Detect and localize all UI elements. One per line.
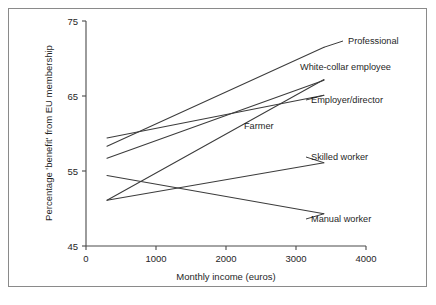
series-label-manual-worker: Manual worker [311,214,371,224]
x-tick-label-2000: 2000 [215,253,236,264]
series-lines [107,47,324,214]
series-line-farmer [107,80,324,201]
y-axis-title: Percentage 'benefit' from EU membership [43,45,54,221]
y-tick-label-55: 55 [67,166,78,177]
series-line-employer-director [107,95,324,138]
y-tick-label-65: 65 [67,91,78,102]
x-tick-label-0: 0 [83,253,88,264]
series-line-white-collar-employee [107,80,324,158]
x-tick-label-1000: 1000 [145,253,166,264]
chart-figure: 75 65 55 45 0 1000 2000 3000 4000 Monthl… [0,0,436,305]
series-label-employer-director: Employer/director [311,95,383,105]
x-axis-title: Monthly income (euros) [176,271,275,282]
series-label-farmer: Farmer [244,121,274,131]
series-label-professional: Professional [348,36,399,46]
leader-line-professional [324,41,343,47]
y-tick-label-45: 45 [67,241,78,252]
x-tick-label-4000: 4000 [355,253,376,264]
series-label-white-collar-employee: White-collar employee [300,62,391,72]
series-label-skilled-worker: Skilled worker [311,152,368,162]
x-tick-label-3000: 3000 [285,253,306,264]
y-tick-label-75: 75 [67,16,78,27]
line-chart: 75 65 55 45 0 1000 2000 3000 4000 Monthl… [0,0,436,305]
